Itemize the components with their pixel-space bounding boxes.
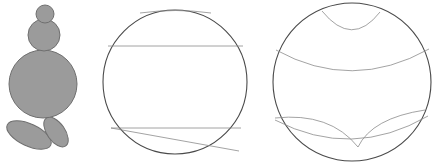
figure-panel	[0, 0, 432, 164]
small-top-circle-shape	[36, 5, 54, 23]
figure-canvas	[0, 0, 432, 164]
large-circle-shape	[9, 50, 77, 118]
medium-circle-shape	[28, 19, 60, 51]
